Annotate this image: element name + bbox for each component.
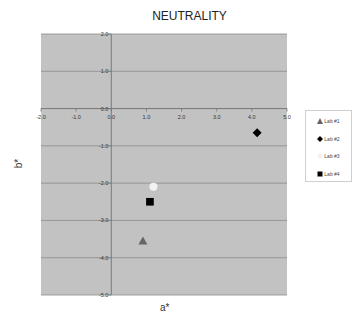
chart-legend: Lab #1Lab #2Lab #3Lab #4 (305, 110, 352, 182)
legend-label: Lab #1 (324, 118, 339, 124)
legend-item: Lab #1 (306, 118, 351, 124)
x-tick-label: -2.0 (36, 114, 45, 120)
y-tick-label: 2.0 (101, 31, 109, 37)
legend-label: Lab #2 (324, 136, 339, 142)
triangle-icon (317, 118, 323, 124)
scatter-plot: -2.0-1.00.01.02.03.04.05.02.01.00.0-1.0-… (0, 0, 355, 329)
x-tick-label: 4.0 (248, 114, 256, 120)
y-tick-label: 0.0 (101, 106, 109, 112)
x-axis-label: a* (160, 302, 169, 313)
y-axis-label: b* (13, 159, 24, 168)
x-tick-label: 0.0 (107, 114, 115, 120)
y-tick-label: -2.0 (99, 180, 108, 186)
data-point-circle (149, 183, 157, 191)
x-tick-label: 2.0 (178, 114, 186, 120)
y-tick-label: -1.0 (99, 143, 108, 149)
legend-item: Lab #2 (306, 136, 351, 142)
x-tick-label: -1.0 (71, 114, 80, 120)
circle-icon (317, 153, 323, 159)
plot-area (41, 34, 287, 295)
legend-label: Lab #3 (324, 153, 339, 159)
y-tick-label: 1.0 (101, 68, 109, 74)
y-tick-label: -4.0 (99, 255, 108, 261)
square-icon (317, 171, 323, 177)
diamond-icon (317, 136, 323, 142)
y-tick-label: -3.0 (99, 217, 108, 223)
legend-label: Lab #4 (324, 171, 339, 177)
x-tick-label: 5.0 (283, 114, 291, 120)
legend-item: Lab #3 (306, 153, 351, 159)
x-tick-label: 3.0 (213, 114, 221, 120)
y-tick-label: -5.0 (99, 292, 108, 298)
x-tick-label: 1.0 (143, 114, 151, 120)
data-point-square (146, 198, 154, 206)
legend-item: Lab #4 (306, 171, 351, 177)
